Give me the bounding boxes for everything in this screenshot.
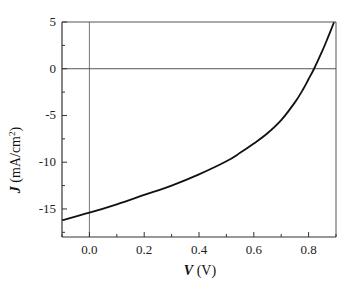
x-tick-label: 0.4 <box>191 242 208 257</box>
x-axis-label: V (V) <box>184 263 217 279</box>
y-axis-label: J (mA/cm2) <box>7 127 24 195</box>
x-tick-label: 0.0 <box>81 242 97 257</box>
y-tick-label: -10 <box>39 154 56 169</box>
y-tick-label: -5 <box>45 107 56 122</box>
y-tick-label: -15 <box>39 201 56 216</box>
y-tick-label: 5 <box>50 14 57 29</box>
plot-area <box>62 22 336 237</box>
axes: 0.00.20.40.60.850-5-10-15 <box>39 14 336 257</box>
y-tick-label: 0 <box>50 61 57 76</box>
x-tick-label: 0.8 <box>300 242 316 257</box>
jv-curve <box>62 22 334 220</box>
x-tick-label: 0.2 <box>136 242 152 257</box>
x-tick-label: 0.6 <box>246 242 263 257</box>
jv-chart: 0.00.20.40.60.850-5-10-15 J (mA/cm2) V (… <box>0 0 352 290</box>
